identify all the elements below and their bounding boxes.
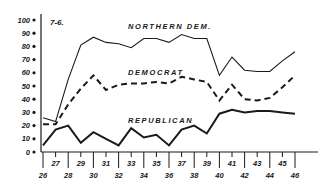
x-tick-label: 29 (76, 159, 86, 168)
figure-label: 7-6. (50, 18, 64, 27)
x-tick-label: 28 (63, 171, 73, 180)
y-tick-dot (32, 71, 35, 74)
series-layer (43, 35, 295, 146)
y-tick-label: 10 (22, 134, 31, 143)
series-label-northern-dem: NORTHERN DEM. (128, 22, 212, 31)
x-tick-label: 35 (152, 159, 161, 168)
y-tick-label: 100 (17, 16, 30, 25)
x-tick-label: 32 (114, 171, 123, 180)
x-tick-label: 46 (290, 171, 300, 180)
y-tick-label: 70 (22, 55, 31, 64)
x-axis: 2628303234363840424446272931333537394143… (38, 152, 318, 180)
x-tick-label: 27 (50, 159, 60, 168)
y-tick-label: 90 (22, 29, 31, 38)
y-tick-dot (32, 111, 35, 114)
x-tick-label: 44 (265, 171, 275, 180)
y-tick-dot (32, 124, 35, 127)
line-chart: 0102030405060708090100 26283032343638404… (0, 0, 336, 189)
y-tick-dot (32, 32, 35, 35)
series-label-democrat: DEMOCRAT (128, 68, 184, 77)
x-tick-label: 26 (38, 171, 48, 180)
x-tick-label: 33 (127, 159, 136, 168)
y-tick-dot (32, 84, 35, 87)
x-tick-label: 40 (214, 171, 224, 180)
x-tick-label: 37 (177, 159, 186, 168)
x-tick-label: 42 (239, 171, 249, 180)
y-tick-label: 50 (22, 82, 31, 91)
y-tick-label: 40 (21, 95, 31, 104)
x-tick-label: 39 (203, 159, 212, 168)
y-tick-label: 60 (22, 68, 31, 77)
y-tick-label: 20 (21, 121, 31, 130)
x-tick-label: 30 (89, 171, 98, 180)
y-tick-dot (32, 137, 35, 140)
y-tick-dot (32, 58, 35, 61)
x-tick-label: 36 (165, 171, 174, 180)
x-tick-label: 41 (227, 159, 236, 168)
x-tick-label: 45 (277, 159, 287, 168)
y-tick-dot (32, 18, 35, 21)
x-tick-label: 34 (140, 171, 149, 180)
y-axis: 0102030405060708090100 (17, 14, 41, 157)
y-tick-label: 0 (26, 148, 31, 157)
x-tick-label: 31 (102, 159, 110, 168)
y-tick-dot (32, 150, 35, 153)
x-tick-label: 43 (252, 159, 262, 168)
y-tick-dot (32, 45, 35, 48)
y-tick-label: 30 (22, 108, 31, 117)
x-tick-label: 38 (190, 171, 199, 180)
series-label-republican: REPUBLICAN (128, 116, 193, 125)
series-line-northern-dem (43, 35, 295, 122)
y-tick-label: 80 (22, 42, 31, 51)
y-tick-dot (32, 98, 35, 101)
